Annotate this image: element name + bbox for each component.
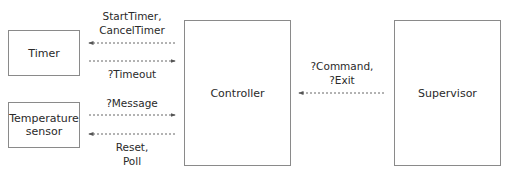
edge-label-supervisor-to-controller: ?Command, ?Exit <box>300 59 384 87</box>
edge-label-timer-to-controller: ?Timeout <box>92 67 172 81</box>
edge-label-sensor-to-controller: ?Message <box>92 96 172 110</box>
edge-label-controller-to-sensor: Reset, Poll <box>92 140 172 168</box>
edge-label-controller-to-timer: StartTimer, CancelTimer <box>92 9 172 37</box>
arrows-layer <box>0 0 514 173</box>
